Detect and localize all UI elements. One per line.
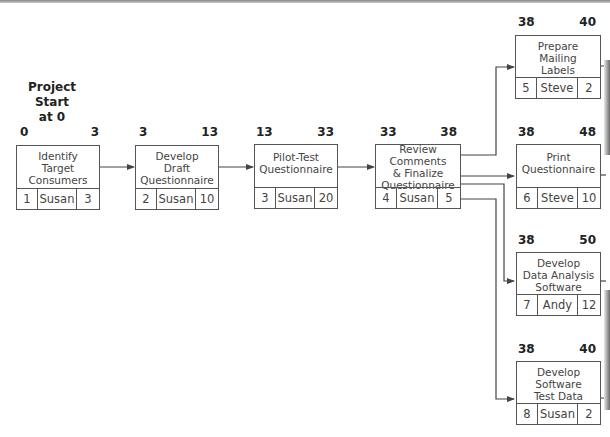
task-details: 1 Susan 3 <box>17 188 99 209</box>
task-node-8[interactable]: Develop Software Test Data 8 Susan 2 <box>516 361 601 425</box>
task-id: 2 <box>136 189 157 209</box>
early-start: 38 <box>518 125 535 139</box>
task-id: 7 <box>517 295 538 315</box>
task-name-line: Mailing <box>538 52 578 64</box>
task-name: Identify Target Consumers <box>17 146 99 190</box>
task-duration: 2 <box>578 78 600 98</box>
task-name-line: Identify <box>28 150 87 162</box>
task-node-7[interactable]: Develop Data Analysis Software 7 Andy 12 <box>516 252 601 316</box>
task-owner: Andy <box>538 295 578 315</box>
arrow-4-to-5 <box>460 67 514 155</box>
early-start: 3 <box>139 125 147 139</box>
task-duration: 10 <box>196 189 218 209</box>
task-id: 8 <box>517 404 538 424</box>
task-name: Pilot-Test Questionnaire <box>255 145 337 179</box>
node-8-times: 38 40 <box>518 342 596 356</box>
early-start: 38 <box>518 233 535 247</box>
task-details: 8 Susan 2 <box>517 403 600 424</box>
task-details: 5 Steve 2 <box>516 77 600 98</box>
node-2-times: 3 13 <box>139 125 218 139</box>
task-name-line: Develop <box>534 366 583 378</box>
arrow-4-to-8 <box>460 199 514 399</box>
right-edge-shadow <box>604 60 610 155</box>
early-start: 38 <box>518 342 535 356</box>
task-name-line: Data Analysis <box>523 269 595 281</box>
node-1-times: 0 3 <box>20 125 99 139</box>
early-start: 38 <box>518 15 535 29</box>
early-finish: 38 <box>440 125 457 139</box>
node-6-times: 38 48 <box>518 125 596 139</box>
early-finish: 3 <box>91 125 99 139</box>
early-finish: 48 <box>579 125 596 139</box>
task-details: 2 Susan 10 <box>136 188 218 209</box>
task-details: 6 Steve 10 <box>517 187 600 208</box>
task-name: Develop Data Analysis Software <box>517 253 600 296</box>
task-name-line: Pilot-Test <box>259 151 333 163</box>
task-name: Review Comments & Finalize Questionnaire <box>376 145 460 189</box>
task-name-line: Labels <box>538 64 578 76</box>
task-name-line: Develop <box>523 257 595 269</box>
task-name: Develop Software Test Data <box>517 362 600 405</box>
early-finish: 13 <box>201 125 218 139</box>
task-details: 3 Susan 20 <box>255 187 337 208</box>
task-node-5[interactable]: Prepare Mailing Labels 5 Steve 2 <box>515 35 601 99</box>
task-owner: Susan <box>276 188 315 208</box>
task-duration: 3 <box>77 189 99 209</box>
task-name-line: Print <box>522 151 596 163</box>
task-name-line: Review Comments <box>378 143 458 167</box>
task-owner: Susan <box>538 404 578 424</box>
task-name-line: Software <box>534 378 583 390</box>
task-owner: Steve <box>537 78 578 98</box>
task-name: Develop Draft Questionnaire <box>136 146 218 190</box>
task-details: 4 Susan 5 <box>376 187 460 208</box>
node-7-times: 38 50 <box>518 233 596 247</box>
task-duration: 12 <box>578 295 600 315</box>
task-id: 6 <box>517 188 538 208</box>
task-id: 5 <box>516 78 537 98</box>
early-finish: 40 <box>579 342 596 356</box>
task-name-line: Test Data <box>534 390 583 402</box>
task-name: Print Questionnaire <box>517 145 600 179</box>
early-start: 0 <box>20 125 28 139</box>
task-name: Prepare Mailing Labels <box>516 36 600 79</box>
task-name-line: Draft <box>140 162 214 174</box>
early-finish: 50 <box>579 233 596 247</box>
task-name-line: Consumers <box>28 174 87 186</box>
right-edge-shadow <box>604 290 610 410</box>
task-duration: 2 <box>578 404 600 424</box>
task-node-3[interactable]: Pilot-Test Questionnaire 3 Susan 20 <box>254 144 338 209</box>
task-owner: Steve <box>538 188 578 208</box>
early-finish: 33 <box>317 125 334 139</box>
task-id: 1 <box>17 189 38 209</box>
task-node-6[interactable]: Print Questionnaire 6 Steve 10 <box>516 144 601 209</box>
task-node-1[interactable]: Identify Target Consumers 1 Susan 3 <box>16 145 100 210</box>
task-owner: Susan <box>397 188 438 208</box>
task-owner: Susan <box>157 189 196 209</box>
task-node-4[interactable]: Review Comments & Finalize Questionnaire… <box>375 144 461 209</box>
task-name-line: Questionnaire <box>140 174 214 186</box>
early-start: 13 <box>256 125 273 139</box>
early-finish: 40 <box>579 15 596 29</box>
task-name-line: Target <box>28 162 87 174</box>
task-duration: 5 <box>438 188 460 208</box>
task-owner: Susan <box>38 189 77 209</box>
task-name-line: Prepare <box>538 40 578 52</box>
task-name-line: Develop <box>140 150 214 162</box>
task-name-line: Questionnaire <box>522 163 596 175</box>
task-details: 7 Andy 12 <box>517 294 600 315</box>
node-3-times: 13 33 <box>256 125 334 139</box>
node-4-times: 33 38 <box>380 125 457 139</box>
task-node-2[interactable]: Develop Draft Questionnaire 2 Susan 10 <box>135 145 219 210</box>
task-duration: 20 <box>315 188 337 208</box>
node-5-times: 38 40 <box>518 15 596 29</box>
task-duration: 10 <box>578 188 600 208</box>
task-id: 4 <box>376 188 397 208</box>
task-name-line: Software <box>523 281 595 293</box>
task-name-line: Questionnaire <box>259 163 333 175</box>
task-id: 3 <box>255 188 276 208</box>
early-start: 33 <box>380 125 397 139</box>
task-name-line: & Finalize <box>378 167 458 179</box>
